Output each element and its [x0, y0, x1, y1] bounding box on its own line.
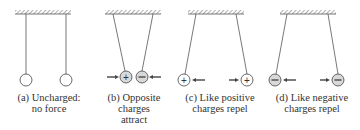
string — [142, 14, 153, 71]
string — [236, 14, 247, 74]
caption-line: no force — [16, 103, 82, 114]
plus-sign-icon: + — [244, 75, 250, 86]
caption-line: (b) Opposite — [101, 92, 167, 103]
ceiling-support — [105, 10, 161, 14]
caption-c: (c) Like positive charges repel — [180, 92, 260, 114]
caption-a: (a) Uncharged: no force — [16, 92, 82, 114]
caption-line: charges repel — [271, 103, 353, 114]
neutral-ball — [60, 74, 72, 86]
caption-line: attract — [101, 114, 167, 125]
caption-line: charges repel — [180, 103, 260, 114]
ceiling-support — [188, 10, 244, 14]
caption-line: (a) Uncharged: — [16, 92, 82, 103]
string — [185, 14, 196, 74]
panel-d-like-negative — [269, 10, 344, 86]
caption-b: (b) Opposite charges attract — [101, 92, 167, 125]
plus-sign-icon: + — [181, 75, 187, 86]
ceiling-support — [15, 10, 71, 14]
caption-d: (d) Like negative charges repel — [271, 92, 353, 114]
caption-line: charges — [101, 103, 167, 114]
string — [328, 14, 338, 74]
caption-line: (d) Like negative — [271, 92, 353, 103]
string — [113, 14, 125, 71]
caption-line: (c) Like positive — [180, 92, 260, 103]
ceiling-support — [280, 10, 336, 14]
plus-sign-icon: + — [123, 72, 129, 83]
panel-b-opposite-charges: + — [105, 10, 161, 83]
neutral-ball — [20, 74, 32, 86]
panel-c-like-positive: + + — [178, 10, 253, 86]
panel-a-uncharged — [15, 10, 72, 86]
string — [276, 14, 287, 74]
